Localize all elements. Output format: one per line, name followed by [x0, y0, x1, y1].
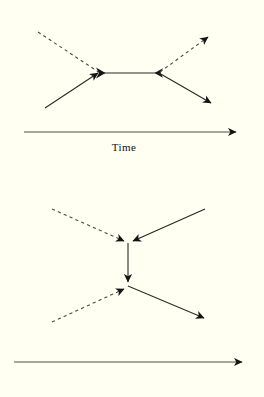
bottom-diagram-canvas	[0, 190, 264, 397]
incoming-dashed-upper-left-line	[38, 32, 100, 73]
propagator-right-arrowhead	[155, 68, 164, 77]
outgoing-solid-lower-right-line	[159, 73, 211, 103]
outgoing-dashed-upper-right-line	[160, 37, 208, 72]
time-axis-label: Time	[0, 141, 256, 153]
bottom-feynman-diagram: Time	[0, 190, 264, 397]
outgoing-dashed-lower-left-line	[52, 289, 124, 322]
outgoing-solid-lower-right-line	[128, 286, 204, 318]
figure-page: Time Time	[0, 0, 264, 397]
incoming-solid-lower-left-line	[45, 73, 98, 108]
incoming-solid-upper-right-line	[133, 209, 205, 241]
top-diagram-canvas	[0, 0, 264, 200]
incoming-dashed-upper-left-line	[52, 209, 124, 241]
top-feynman-diagram: Time	[0, 0, 264, 200]
